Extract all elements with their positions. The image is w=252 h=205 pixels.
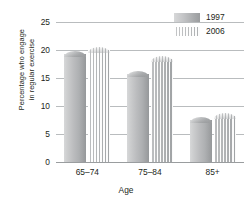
bar-body — [190, 120, 212, 162]
bar-cap — [127, 71, 149, 77]
bar-cap — [214, 113, 236, 119]
legend-item-2006: 2006 — [174, 24, 225, 38]
y-axis-tick-label: 10 — [30, 102, 50, 110]
bar-cap — [190, 117, 212, 123]
bar-2006-65–74 — [88, 47, 110, 162]
bar-body — [127, 74, 149, 162]
bar-2006-85+ — [214, 113, 236, 162]
bar-cap — [64, 51, 86, 57]
bar-group — [190, 22, 236, 162]
bar-series-container — [56, 22, 244, 162]
bar-group — [64, 22, 110, 162]
bar-cap — [88, 47, 110, 53]
bar-body — [88, 50, 110, 162]
legend-swatch-2006-icon — [174, 27, 200, 36]
x-axis-tick-label: 65–74 — [57, 168, 117, 176]
y-axis-title-line-1: Percentage who engage — [17, 5, 27, 135]
bar-chart: Percentage who engage in regular exercis… — [0, 0, 252, 205]
bar-group — [127, 22, 173, 162]
legend-item-1997: 1997 — [174, 10, 225, 24]
y-axis-tick-label: 25 — [30, 18, 50, 26]
bar-body — [214, 116, 236, 162]
y-axis-tick-label: 0 — [30, 158, 50, 166]
legend-label-2006: 2006 — [206, 27, 225, 35]
x-axis-tick-label: 75–84 — [120, 168, 180, 176]
legend-swatch-1997-icon — [174, 13, 200, 22]
gridline — [56, 162, 244, 163]
legend: 1997 2006 — [174, 10, 225, 38]
x-axis-tick-label: 85+ — [183, 168, 243, 176]
plot-area — [56, 22, 244, 162]
bar-1997-75–84 — [127, 71, 149, 162]
bar-body — [151, 59, 173, 162]
bar-2006-75–84 — [151, 56, 173, 162]
y-axis-tick-label: 15 — [30, 74, 50, 82]
x-axis-title: Age — [0, 186, 252, 194]
bar-body — [64, 54, 86, 162]
bar-cap — [151, 56, 173, 62]
y-axis-tick-label: 20 — [30, 46, 50, 54]
bar-1997-85+ — [190, 117, 212, 162]
bar-1997-65–74 — [64, 51, 86, 162]
legend-label-1997: 1997 — [206, 13, 225, 21]
y-axis-tick-label: 5 — [30, 130, 50, 138]
